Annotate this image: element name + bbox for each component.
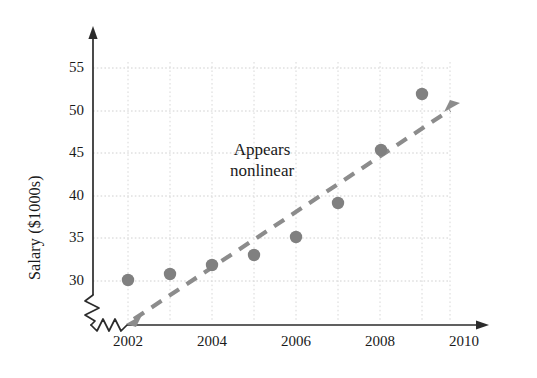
y-tick-label-35: 35 — [48, 230, 84, 245]
y-tick-label-50: 50 — [48, 103, 84, 118]
y-tick-label-40: 40 — [48, 188, 84, 203]
y-tick-label-45: 45 — [48, 145, 84, 160]
x-tick-label-2008: 2008 — [355, 334, 405, 349]
data-point — [122, 274, 134, 286]
x-tick-label-2006: 2006 — [271, 334, 321, 349]
x-axis-break-icon — [91, 319, 127, 331]
data-point — [290, 231, 302, 243]
grid-vertical — [128, 62, 450, 322]
annotation-line-1: Appears — [196, 140, 328, 161]
data-points — [122, 88, 428, 286]
data-point — [248, 249, 260, 261]
y-axis — [88, 26, 97, 295]
trend-line — [126, 100, 460, 327]
scatter-plot-figure: Salary ($1000s) 55 50 45 40 35 30 2002 2… — [0, 0, 537, 378]
x-tick-label-2004: 2004 — [187, 334, 237, 349]
data-point — [332, 197, 344, 209]
x-tick-label-2002: 2002 — [103, 334, 153, 349]
data-point — [164, 268, 176, 280]
annotation-line-2: nonlinear — [196, 161, 328, 182]
x-tick-label-2010: 2010 — [439, 334, 489, 349]
y-tick-label-55: 55 — [48, 60, 84, 75]
chart-annotation: Appears nonlinear — [196, 140, 328, 181]
data-point — [375, 144, 387, 156]
y-tick-label-30: 30 — [48, 273, 84, 288]
data-point — [206, 259, 218, 271]
data-point — [416, 88, 428, 100]
y-axis-break-icon — [85, 295, 99, 325]
y-axis-title: Salary ($1000s) — [26, 175, 44, 280]
x-axis — [127, 320, 489, 329]
